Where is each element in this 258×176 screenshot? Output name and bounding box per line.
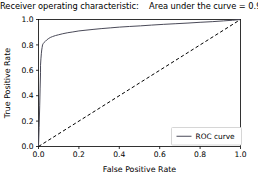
- x-tick-label: 0.0: [32, 150, 44, 159]
- y-tick-label: 0.4: [21, 91, 33, 100]
- x-tick-label: 1.0: [234, 150, 246, 159]
- y-axis-ticks: 0.00.20.40.60.81.0: [21, 15, 38, 151]
- y-tick-label: 1.0: [21, 15, 33, 24]
- y-tick-label: 0.0: [21, 142, 33, 151]
- y-tick-label: 0.8: [21, 41, 33, 50]
- y-tick-label: 0.2: [21, 117, 33, 126]
- y-tick-label: 0.6: [21, 66, 33, 75]
- x-tick-label: 0.4: [113, 150, 125, 159]
- x-tick-label: 0.8: [194, 150, 206, 159]
- y-axis-title: True Positive Rate: [3, 48, 12, 119]
- x-tick-label: 0.6: [154, 150, 166, 159]
- roc-chart-figure: Receiver operating characteristic: Area …: [0, 0, 258, 176]
- x-axis-ticks: 0.00.20.40.60.81.0: [32, 147, 246, 160]
- x-tick-label: 0.2: [73, 150, 85, 159]
- plot-canvas: 0.00.20.40.60.81.0 0.00.20.40.60.81.0 Fa…: [0, 0, 258, 176]
- legend-entry-label: ROC curve: [196, 132, 236, 141]
- x-axis-title: False Positive Rate: [103, 165, 176, 174]
- chart-legend[interactable]: ROC curve: [172, 128, 242, 146]
